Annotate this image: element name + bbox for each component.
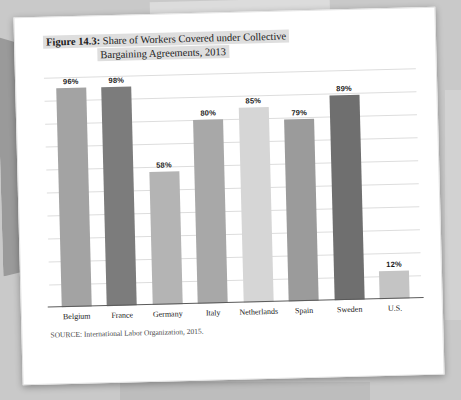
bar-value-label: 98% — [108, 76, 124, 85]
bar — [149, 171, 182, 305]
x-axis-label: Netherlands — [236, 307, 282, 317]
bar — [239, 106, 274, 302]
figure-number: Figure 14.3: — [46, 35, 100, 47]
bars-container: 96%98%58%80%85%79%89%12% — [44, 68, 422, 307]
bar — [56, 88, 92, 308]
x-axis-label: France — [99, 310, 145, 320]
bar-value-label: 96% — [63, 77, 79, 86]
bar-value-label: 12% — [386, 260, 402, 269]
figure-title: Figure 14.3: Share of Workers Covered un… — [43, 26, 422, 64]
bar — [379, 271, 410, 299]
bar-chart: 96%98%58%80%85%79%89%12% — [44, 68, 422, 307]
bar-value-label: 85% — [245, 96, 261, 105]
bar-value-label: 89% — [336, 84, 352, 93]
bar — [193, 119, 228, 304]
bar-column: 89% — [321, 69, 372, 300]
x-axis-label: Germany — [145, 309, 191, 319]
x-axis-label: Italy — [190, 308, 236, 318]
bar-column: 58% — [139, 74, 190, 305]
background-bottom-band — [120, 382, 370, 400]
figure-title-text-1: Share of Workers Covered under Collectiv… — [103, 31, 287, 47]
x-axis-label: Belgium — [54, 311, 100, 321]
bar-value-label: 80% — [200, 108, 216, 117]
x-axis-label: Spain — [281, 306, 327, 316]
bar-column: 79% — [275, 71, 326, 302]
x-axis-label: U.S. — [372, 303, 418, 313]
bar-value-label: 58% — [156, 160, 172, 169]
bar-column: 96% — [48, 76, 99, 307]
bar-column: 12% — [366, 68, 417, 299]
figure-page: Figure 14.3: Share of Workers Covered un… — [13, 7, 444, 386]
bar-column: 80% — [184, 73, 235, 304]
bar-column: 98% — [93, 75, 144, 306]
bar — [284, 119, 319, 301]
figure-title-text-2: Bargaining Agreements, 2013 — [97, 45, 229, 61]
bar-value-label: 79% — [291, 108, 307, 117]
bar — [329, 95, 364, 300]
source-note: SOURCE: International Labor Organization… — [50, 321, 428, 340]
background-right-strip — [445, 90, 461, 320]
bar-column: 85% — [230, 72, 281, 303]
bar — [101, 86, 137, 306]
x-axis-label: Sweden — [327, 304, 373, 314]
